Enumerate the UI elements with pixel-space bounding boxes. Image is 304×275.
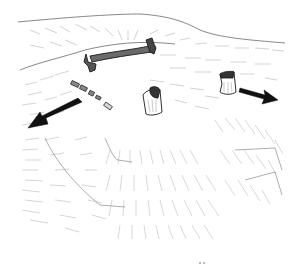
rubble-pieces <box>71 80 113 109</box>
landscape-illustration <box>0 0 304 275</box>
arrow-left-icon <box>28 98 82 128</box>
hatching-radial <box>106 118 283 239</box>
page-mark <box>199 262 205 264</box>
terrace-edges <box>45 138 282 207</box>
arrow-right-icon <box>239 88 278 104</box>
stump-right <box>220 71 236 94</box>
stump-center <box>143 87 162 115</box>
wall-fragment <box>84 38 156 72</box>
